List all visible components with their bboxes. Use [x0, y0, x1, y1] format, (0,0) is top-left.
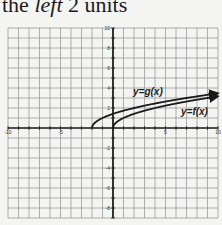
graph: -10-5510108642-2-4-6-8y=g(x)y=f(x) — [0, 0, 222, 225]
label-f: y=f(x) — [180, 106, 209, 117]
x-tick-label: -5 — [58, 129, 63, 135]
y-tick-label: 10 — [104, 25, 110, 31]
y-tick-label: 2 — [107, 105, 110, 111]
x-tick-label: 10 — [215, 129, 221, 135]
y-tick-label: -6 — [106, 185, 111, 191]
label-g: y=g(x) — [132, 86, 163, 97]
x-tick-label: -10 — [4, 129, 11, 135]
y-tick-label: -8 — [106, 205, 111, 211]
y-tick-label: -2 — [106, 145, 111, 151]
y-tick-label: 8 — [107, 45, 110, 51]
y-tick-label: -4 — [106, 165, 111, 171]
x-tick-label: 5 — [164, 129, 167, 135]
y-tick-label: 6 — [107, 65, 110, 71]
y-tick-label: 4 — [107, 85, 110, 91]
